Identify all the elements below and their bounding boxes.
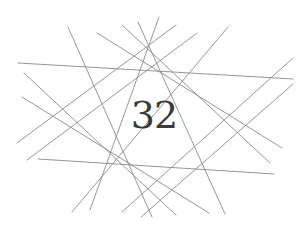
- center-number-label: 32: [0, 95, 308, 135]
- line-segment: [18, 63, 293, 79]
- line-segment: [38, 159, 274, 174]
- line-figure: 32: [0, 0, 308, 232]
